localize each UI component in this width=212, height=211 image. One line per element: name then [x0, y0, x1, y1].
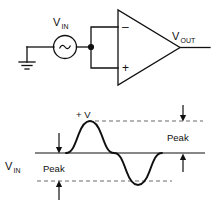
- figure-root: V IN – + V OUT: [0, 0, 212, 211]
- output-label-sub-out: OUT: [181, 37, 197, 44]
- waveform-axis-label-v: V: [5, 160, 13, 172]
- opamp-minus-sign: –: [122, 20, 129, 34]
- peak-measure-right: Peak: [167, 105, 189, 172]
- peak-measure-left: Peak: [43, 133, 65, 200]
- ac-source-symbol: [54, 36, 77, 59]
- wire-to-noninverting-input: [91, 47, 118, 68]
- waveform-group: V IN + V Peak Peak: [5, 105, 205, 200]
- source-label-sub-in: IN: [62, 23, 69, 30]
- source-label-v: V: [53, 16, 61, 28]
- peak-label-right: Peak: [167, 132, 189, 143]
- peak-label-left: Peak: [43, 163, 65, 174]
- output-label-v: V: [172, 30, 180, 42]
- wire-to-inverting-input: [91, 27, 118, 47]
- waveform-axis-label-sub-in: IN: [14, 167, 21, 174]
- ground-symbol: [19, 47, 35, 69]
- opamp-plus-sign: +: [122, 61, 129, 75]
- positive-rail-label: + V: [76, 109, 91, 120]
- circuit-group: V IN – + V OUT: [19, 10, 210, 85]
- diagram-canvas: V IN – + V OUT: [0, 0, 212, 211]
- right-lower-arrow-head: [180, 154, 186, 161]
